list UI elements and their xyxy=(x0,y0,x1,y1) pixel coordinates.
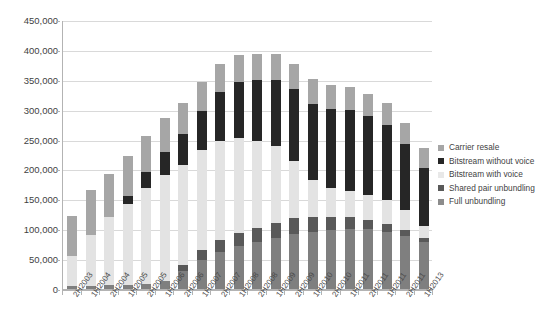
bar-segment xyxy=(178,134,188,165)
bar-segment xyxy=(215,141,225,240)
legend-item[interactable]: Shared pair unbundling xyxy=(438,182,558,196)
y-axis-tick-mark xyxy=(56,141,60,142)
legend-swatch-icon xyxy=(438,145,444,151)
y-axis-tick-mark xyxy=(56,51,60,52)
bar-segment xyxy=(271,54,281,80)
bar-segment xyxy=(308,104,318,180)
bar-column[interactable] xyxy=(400,123,410,289)
plot-area xyxy=(62,21,432,290)
y-axis-tick-label: 100,000 xyxy=(2,225,58,235)
bar-segment xyxy=(400,123,410,144)
bar-segment xyxy=(252,141,262,228)
bar-segment xyxy=(289,161,299,219)
bar-column[interactable] xyxy=(271,54,281,289)
bar-column[interactable] xyxy=(178,103,188,289)
bar-column[interactable] xyxy=(289,64,299,289)
bar-segment xyxy=(326,188,336,217)
y-axis-tick-label: 150,000 xyxy=(2,195,58,205)
bar-column[interactable] xyxy=(252,54,262,290)
bar-segment xyxy=(197,250,207,260)
bar-column[interactable] xyxy=(141,136,151,289)
bar-segment xyxy=(419,226,429,239)
bar-column[interactable] xyxy=(215,64,225,289)
y-axis-tick-mark xyxy=(56,260,60,261)
legend-swatch-icon xyxy=(438,158,444,164)
stacked-bar-chart: 450,000400,000350,000300,000250,000200,0… xyxy=(0,0,560,336)
legend-swatch-icon xyxy=(438,185,444,191)
bar-segment xyxy=(234,233,244,246)
y-axis-tick-label: 400,000 xyxy=(2,46,58,56)
bar-column[interactable] xyxy=(419,148,429,289)
bar-segment xyxy=(382,125,392,200)
bar-segment xyxy=(141,136,151,172)
y-axis-tick-mark xyxy=(56,111,60,112)
bar-column[interactable] xyxy=(326,85,336,289)
bar-segment xyxy=(382,103,392,125)
y-axis-tick-mark xyxy=(56,170,60,171)
x-axis-labels: 2H20031H20042H20041H20052H20051H20062H20… xyxy=(0,292,440,336)
bar-segment xyxy=(160,152,170,175)
bar-segment xyxy=(363,195,373,220)
bar-column[interactable] xyxy=(67,216,77,290)
bar-column[interactable] xyxy=(123,156,133,289)
y-axis-tick-mark xyxy=(56,230,60,231)
bar-segment xyxy=(271,146,281,224)
bar-segment xyxy=(178,165,188,265)
legend-item[interactable]: Bitstream without voice xyxy=(438,155,558,169)
bar-column[interactable] xyxy=(345,87,355,289)
bar-column[interactable] xyxy=(234,55,244,289)
legend-item[interactable]: Bitstream with voice xyxy=(438,168,558,182)
bar-segment xyxy=(104,174,114,217)
bar-segment xyxy=(271,223,281,238)
bar-series-container xyxy=(63,21,432,289)
bar-column[interactable] xyxy=(197,82,207,289)
bar-segment xyxy=(419,168,429,225)
bar-segment xyxy=(308,217,318,231)
bar-segment xyxy=(345,191,355,217)
bar-column[interactable] xyxy=(160,118,170,289)
legend-item-label: Shared pair unbundling xyxy=(449,184,535,193)
bar-segment xyxy=(345,87,355,110)
bar-segment xyxy=(345,217,355,228)
y-axis-tick-label: 350,000 xyxy=(2,76,58,86)
bar-segment xyxy=(363,116,373,195)
legend-item-label: Full unbundling xyxy=(449,197,505,206)
bar-segment xyxy=(178,103,188,134)
bar-segment xyxy=(160,118,170,152)
y-axis-tick-label: 250,000 xyxy=(2,136,58,146)
bar-segment xyxy=(308,180,318,218)
bar-column[interactable] xyxy=(363,94,373,289)
bar-segment xyxy=(197,150,207,250)
legend-item[interactable]: Full unbundling xyxy=(438,195,558,209)
y-axis-tick-label: 450,000 xyxy=(2,16,58,26)
legend-item-label: Bitstream without voice xyxy=(449,157,534,166)
bar-segment xyxy=(215,64,225,92)
bar-segment xyxy=(197,82,207,111)
legend-item[interactable]: Carrier resale xyxy=(438,141,558,155)
bar-segment xyxy=(123,156,133,196)
bar-segment xyxy=(382,224,392,232)
bar-column[interactable] xyxy=(382,103,392,289)
bar-segment xyxy=(326,217,336,230)
bar-segment xyxy=(252,54,262,80)
bar-segment xyxy=(197,111,207,150)
bar-segment xyxy=(67,216,77,257)
legend-item-label: Bitstream with voice xyxy=(449,170,523,179)
bar-segment xyxy=(141,172,151,188)
bar-column[interactable] xyxy=(308,79,318,289)
bar-segment xyxy=(400,144,410,210)
bar-segment xyxy=(289,89,299,160)
bar-segment xyxy=(308,79,318,104)
bar-segment xyxy=(123,196,133,204)
bar-segment xyxy=(363,220,373,230)
bar-segment xyxy=(400,210,410,230)
bar-segment xyxy=(160,175,170,281)
bar-segment xyxy=(289,218,299,234)
bar-segment xyxy=(252,80,262,141)
bar-segment xyxy=(271,80,281,146)
y-axis-tick-label: 200,000 xyxy=(2,165,58,175)
bar-segment xyxy=(215,92,225,140)
legend-swatch-icon xyxy=(438,172,444,178)
bar-segment xyxy=(67,256,77,286)
y-axis-tick-label: 50,000 xyxy=(2,255,58,265)
